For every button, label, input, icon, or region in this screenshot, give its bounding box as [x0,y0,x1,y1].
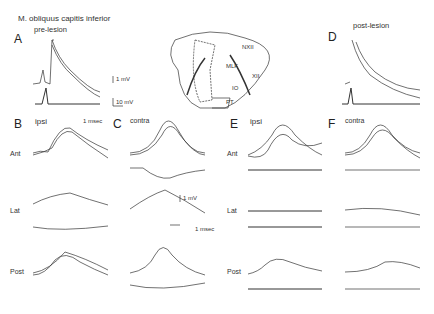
panel-label-a: A [14,32,22,46]
figure-title: M. obliquus capitis inferior [18,14,110,23]
panel-label-e: E [230,117,238,131]
scale-1mv-a: 1 mV [116,76,130,82]
condition-b: ipsi [35,117,47,126]
panel-a-traces [33,40,100,104]
panel-label-f: F [328,117,335,131]
label-mlf: MLF [226,63,238,69]
scale-1mv-c: 1 mV [183,195,197,201]
row-label-post-right: Post [227,268,241,275]
panel-label-c: C [113,117,122,131]
row-label-post-left: Post [10,268,24,275]
condition-c: contra [130,117,149,124]
label-xii: XII [252,73,259,79]
label-pt: PT [226,99,234,105]
panel-label-d: D [328,30,337,44]
label-nxii: NXII [242,44,254,50]
scale-time-a: 1 msec [83,118,102,124]
scale-time-c: 1 msec [195,226,214,232]
row-label-lat-left: Lat [10,207,20,214]
post-lesion-label: post-lesion [353,21,389,30]
figure-traces [0,0,434,314]
row-label-ant-right: Ant [227,150,238,157]
label-io: IO [232,85,238,91]
panel-label-b: B [14,117,22,131]
row-label-ant-left: Ant [10,150,21,157]
scale-10mv-a: 10 mV [116,99,133,105]
condition-f: contra [345,117,364,124]
condition-e: ipsi [250,117,262,126]
pre-lesion-label: pre-lesion [34,25,67,34]
row-label-lat-right: Lat [227,207,237,214]
brainstem-diagram [171,32,270,108]
